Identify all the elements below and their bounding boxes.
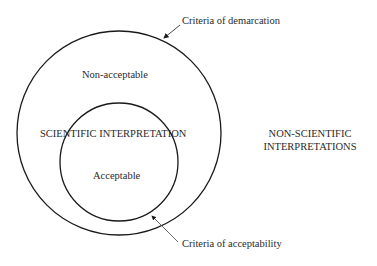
non-scientific-line1: NON-SCIENTIFIC: [260, 127, 360, 140]
diagram-canvas: Criteria of demarcation Non-acceptable S…: [0, 0, 377, 266]
non-acceptable-label: Non-acceptable: [82, 68, 148, 81]
demarcation-arrow: [164, 25, 180, 38]
scientific-interpretation-label: SCIENTIFIC INTERPRETATION: [40, 127, 186, 140]
acceptability-arrow: [152, 216, 178, 242]
non-scientific-interpretations-label: NON-SCIENTIFIC INTERPRETATIONS: [260, 127, 360, 153]
inner-circle: [60, 103, 178, 221]
criteria-of-acceptability-label: Criteria of acceptability: [182, 237, 282, 250]
acceptable-label: Acceptable: [93, 169, 140, 182]
non-scientific-line2: INTERPRETATIONS: [260, 140, 360, 153]
criteria-of-demarcation-label: Criteria of demarcation: [182, 14, 280, 27]
